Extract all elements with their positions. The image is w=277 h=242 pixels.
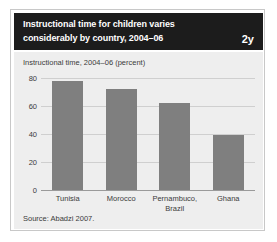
figure-number-badge: 2y (242, 33, 254, 45)
y-axis-tick-label: 40 (29, 130, 37, 139)
gridline-0 (41, 190, 255, 191)
plot-area: 020406080TunisiaMoroccoPernambuco, Brazi… (41, 78, 255, 190)
figure-header: Instructional time for children varies c… (14, 13, 263, 50)
gridline-80 (41, 78, 255, 79)
bar (52, 81, 83, 190)
y-axis-tick-label: 0 (33, 186, 37, 195)
x-axis-tick-label: Morocco (107, 194, 136, 204)
bar (213, 135, 244, 190)
x-axis-tick-label: Tunisia (56, 194, 80, 204)
y-axis-tick-label: 60 (29, 102, 37, 111)
figure-card: Instructional time for children varies c… (10, 9, 265, 231)
chart-axis-title: Instructional time, 2004–06 (percent) (23, 58, 145, 67)
figure-title: Instructional time for children varies c… (23, 18, 218, 45)
chart-panel: Instructional time, 2004–06 (percent) 02… (14, 52, 263, 229)
source-note: Source: Abadzi 2007. (23, 214, 94, 223)
bar (106, 89, 137, 190)
x-axis-tick-label: Ghana (217, 194, 240, 204)
bar (159, 103, 190, 190)
y-axis-tick-label: 20 (29, 158, 37, 167)
x-axis-tick-label: Pernambuco, Brazil (152, 194, 197, 213)
y-axis-tick-label: 80 (29, 74, 37, 83)
